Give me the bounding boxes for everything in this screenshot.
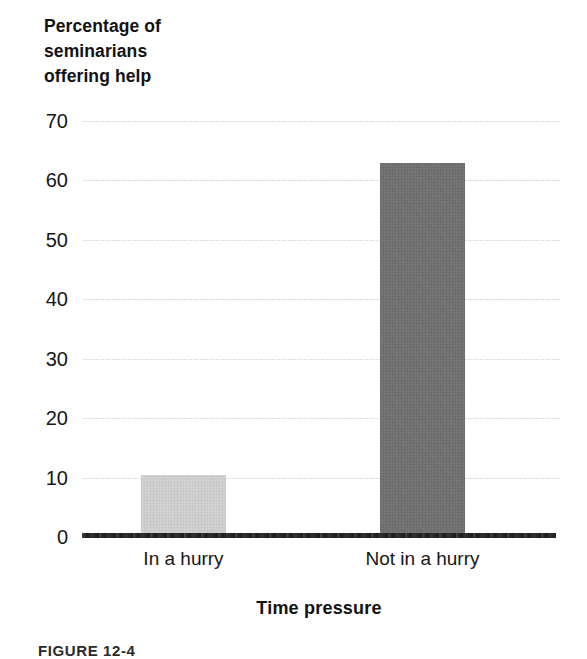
y-axis-title: Percentage of seminarians offering help [44,14,274,89]
gridline [82,359,560,360]
y-axis-tick-labels: 010203040506070 [0,121,68,537]
gridline [82,121,560,122]
x-axis-baseline [82,533,556,538]
y-axis-title-line-1: Percentage of [44,14,274,39]
plot-area [82,121,560,537]
y-axis-title-line-2: seminarians [44,39,274,64]
y-axis-title-line-3: offering help [44,64,274,89]
x-axis-tick-label: Not in a hurry [313,548,533,570]
y-axis-tick-label: 30 [8,349,68,369]
y-axis-tick-label: 0 [8,527,68,547]
x-axis-tick-label: In a hurry [74,548,294,570]
bar-texture [141,475,226,537]
gridline [82,240,560,241]
x-axis-title: Time pressure [82,598,556,619]
y-axis-tick-label: 50 [8,230,68,250]
gridline [82,180,560,181]
y-axis-tick-label: 20 [8,408,68,428]
y-axis-tick-label: 10 [8,468,68,488]
y-axis-tick-label: 60 [8,170,68,190]
bar-in-a-hurry [141,475,226,537]
gridline [82,418,560,419]
y-axis-tick-label: 70 [8,111,68,131]
figure-caption: FIGURE 12-4 [38,642,135,659]
bar-not-in-a-hurry [380,163,465,537]
gridline [82,299,560,300]
bar-texture [380,163,465,537]
y-axis-tick-label: 40 [8,289,68,309]
